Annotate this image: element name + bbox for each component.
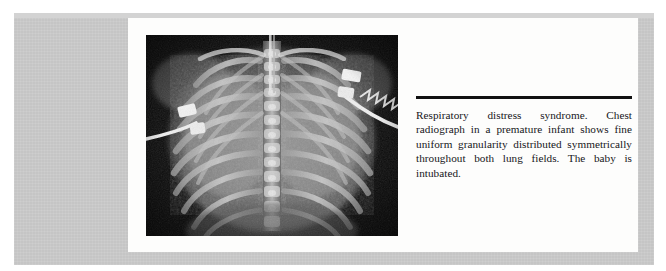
figure-alt-text: Chest radiograph of a premature infant	[0, 0, 1, 1]
figure-caption: Respiratory distress syndrome. Chest rad…	[416, 96, 632, 180]
caption-rule-divider	[416, 96, 632, 99]
scanned-page: Respiratory distress syndrome. Chest rad…	[0, 0, 666, 271]
figure-radiograph	[146, 35, 398, 236]
chest-radiograph-image	[146, 35, 398, 236]
caption-text: Respiratory distress syndrome. Chest rad…	[416, 108, 632, 180]
